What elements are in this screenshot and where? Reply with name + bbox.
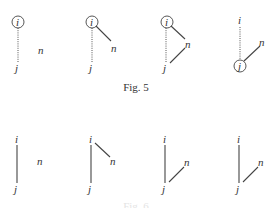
fig5-panel-3: i j n — [161, 16, 191, 74]
node-n-label: n — [185, 38, 191, 50]
fig6-panel-4: i j n — [234, 133, 264, 195]
node-j-label: j — [236, 60, 241, 72]
node-i-label: i — [15, 133, 18, 145]
diagram-canvas: i j n i j n i j n i j n Fig. 5 i j n — [0, 0, 271, 208]
node-i-label: i — [90, 16, 93, 28]
node-n-label: n — [38, 44, 44, 56]
node-j-label: j — [86, 183, 91, 195]
node-i-label: i — [16, 16, 19, 28]
edge-j-n-solid — [170, 48, 185, 63]
node-n-label: n — [111, 42, 117, 54]
node-j-label: j — [13, 62, 18, 74]
node-n-label: n — [37, 155, 43, 167]
node-i-label: i — [237, 133, 240, 145]
node-i-label: i — [163, 133, 166, 145]
fig5-panel-2: i j n — [86, 16, 117, 74]
edge-j-n-solid — [243, 167, 258, 182]
node-i-label: i — [238, 14, 241, 26]
fig6-panel-1: i j n — [12, 133, 43, 195]
node-n-label: n — [259, 36, 265, 48]
edge-i-n-solid — [96, 26, 111, 41]
fig6-panel-2: i j n — [86, 133, 116, 195]
edge-i-n-solid — [171, 26, 185, 39]
node-j-label: j — [87, 62, 92, 74]
edge-j-n-solid — [169, 167, 184, 182]
node-j-label: j — [234, 183, 239, 195]
node-n-label: n — [258, 156, 264, 168]
edge-j-n-solid — [244, 46, 260, 61]
fig6-panel-3: i j n — [160, 133, 190, 195]
node-j-label: j — [161, 62, 166, 74]
node-i-label: i — [165, 16, 168, 28]
node-n-label: n — [184, 156, 190, 168]
node-n-label: n — [110, 155, 116, 167]
node-i-label: i — [89, 133, 92, 145]
figure-caption-6: Fig. 6 — [123, 200, 149, 208]
fig5-panel-1: i j n — [12, 16, 44, 74]
edge-i-n-solid — [95, 143, 110, 157]
node-j-label: j — [12, 183, 17, 195]
figure-caption-5: Fig. 5 — [123, 81, 149, 93]
node-j-label: j — [160, 183, 165, 195]
fig5-panel-4: i j n — [234, 14, 265, 72]
